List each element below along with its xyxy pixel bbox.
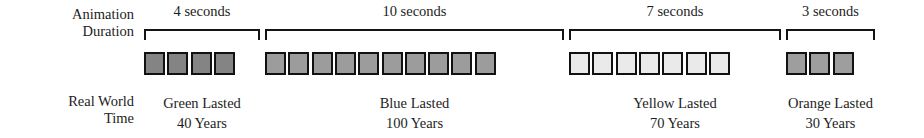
frame-group-blue [265,52,564,78]
frame-cell [833,52,854,75]
real-world-caption-blue-line1: Blue Lasted [245,93,584,113]
real-world-time-row-label-line1: Real World [0,93,134,110]
real-world-time-row-label: Real World Time [0,93,134,127]
duration-caption-blue: 10 seconds [265,3,564,20]
frame-cell [709,52,730,75]
frame-cell [214,52,235,75]
bracket-orange [786,29,875,40]
frame-cell [288,52,309,75]
frame-cell [662,52,683,75]
duration-caption-yellow: 7 seconds [569,3,781,20]
frame-cell [639,52,660,75]
frame-cell [569,52,590,75]
animation-duration-row-label-line2: Duration [0,23,134,40]
frame-cell [686,52,707,75]
bracket-blue [265,29,564,40]
frame-cell [809,52,830,75]
frame-cell [475,52,496,75]
real-world-caption-yellow: Yellow Lasted 70 Years [549,93,801,133]
frame-group-yellow [569,52,781,78]
real-world-caption-blue: Blue Lasted 100 Years [245,93,584,133]
frame-cell [167,52,188,75]
animation-duration-row-label-line1: Animation [0,6,134,23]
real-world-time-row-label-line2: Time [0,110,134,127]
real-world-caption-orange-line2: 30 Years [766,113,895,133]
frame-cell [616,52,637,75]
real-world-caption-blue-line2: 100 Years [245,113,584,133]
duration-caption-orange: 3 seconds [786,3,875,20]
frame-cell [358,52,379,75]
frame-cell [265,52,286,75]
animation-duration-row-label: Animation Duration [0,6,134,40]
frame-cell [405,52,426,75]
frame-cell [592,52,613,75]
frame-cell [428,52,449,75]
frame-cell [144,52,165,75]
frame-cell [312,52,333,75]
duration-caption-green: 4 seconds [144,3,260,20]
real-world-caption-yellow-line1: Yellow Lasted [549,93,801,113]
frame-cell [191,52,212,75]
frame-cell [451,52,472,75]
real-world-caption-orange: Orange Lasted 30 Years [766,93,895,133]
bracket-green [144,29,260,40]
frame-group-green [144,52,260,78]
real-world-caption-orange-line1: Orange Lasted [766,93,895,113]
bracket-yellow [569,29,781,40]
frame-cell [382,52,403,75]
real-world-caption-yellow-line2: 70 Years [549,113,801,133]
animation-duration-timeline-figure: Animation Duration Real World Time 4 sec… [0,0,924,138]
frame-group-orange [786,52,875,78]
frame-cell [335,52,356,75]
frame-cell [786,52,807,75]
